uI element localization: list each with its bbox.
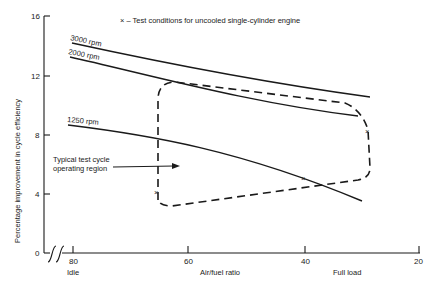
region-label-line1: Typical test cycle — [53, 155, 110, 164]
x-tick-label-60: 60 — [184, 257, 193, 266]
test-point-marker: × — [301, 174, 305, 183]
y-axis-label: Percentage improvement in cycle efficien… — [13, 99, 22, 243]
axis-break-icon — [48, 246, 56, 262]
y-tick-label-16: 16 — [31, 12, 40, 21]
legend-note: × – Test conditions for uncooled single-… — [120, 16, 300, 25]
y-tick-label-4: 4 — [35, 190, 40, 199]
series-1250-rpm — [68, 125, 362, 201]
region-pointer-arrow — [113, 166, 174, 167]
x-annotation-idle: Idle — [67, 268, 79, 277]
axis-break-icon — [56, 246, 64, 262]
y-tick-label-8: 8 — [35, 131, 40, 140]
region-label-line2: operating region — [53, 164, 107, 173]
x-axis-label: Air/fuel ratio — [200, 268, 240, 277]
series-3000-rpm — [72, 43, 370, 97]
x-tick-label-20: 20 — [414, 257, 423, 266]
test-point-marker: × — [154, 188, 158, 197]
x-tick-label-40: 40 — [301, 257, 310, 266]
y-tick-label-0: 0 — [35, 249, 40, 258]
series-2000-rpm — [70, 57, 358, 116]
y-tick-label-12: 12 — [31, 72, 40, 81]
x-tick-label-80: 80 — [69, 257, 78, 266]
x-annotation-full-load: Full load — [333, 268, 361, 277]
chart: 16 12 8 4 0 Percentage improvement in cy… — [0, 0, 438, 289]
arrowhead-icon — [172, 163, 180, 169]
test-point-marker: × — [365, 127, 369, 136]
